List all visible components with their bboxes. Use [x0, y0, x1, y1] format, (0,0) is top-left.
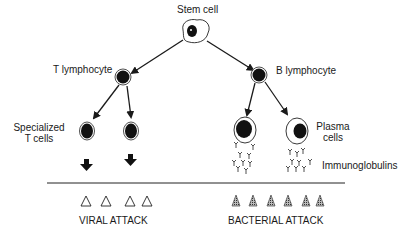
plasma-cell-icon — [286, 118, 308, 144]
t-lymphocyte-label: T lymphocyte — [53, 64, 112, 75]
bacterial-attack-label: BACTERIAL ATTACK — [228, 215, 323, 226]
t-lymphocyte-icon — [115, 69, 131, 85]
arrow-stem-to-t — [132, 40, 183, 73]
specialized-t-cell-icon — [124, 122, 139, 140]
t-cell-attack-arrow-icon — [80, 159, 93, 171]
b-lymphocyte-label: B lymphocyte — [276, 65, 336, 76]
arrow-t-to-spec2 — [127, 86, 131, 117]
specialized-t-cells-label: Specialized T cells — [10, 122, 68, 144]
plasma-cell-icon — [234, 117, 256, 143]
bacteria-icons — [232, 195, 324, 206]
arrow-t-to-spec1 — [94, 85, 119, 118]
specialized-t-cells-line1: Specialized — [10, 122, 68, 133]
immunoglobulin-icons — [232, 142, 312, 174]
plasma-cells-line1: Plasma — [315, 121, 351, 132]
arrow-b-to-plasma2 — [265, 82, 287, 114]
diagram-canvas — [0, 0, 413, 239]
specialized-t-cell-icon — [80, 122, 95, 140]
specialized-t-cells-line2: T cells — [10, 133, 68, 144]
viral-attack-label: VIRAL ATTACK — [79, 215, 148, 226]
stem-cell-icon — [183, 19, 209, 42]
plasma-cells-label: Plasma cells — [315, 121, 351, 143]
b-lymphocyte-icon — [251, 67, 267, 83]
immunoglobulins-label: Immunoglobulins — [322, 160, 398, 171]
virus-icons — [81, 196, 152, 206]
arrow-b-to-plasma1 — [247, 83, 255, 115]
stem-cell-label: Stem cell — [177, 4, 218, 15]
arrow-stem-to-b — [207, 41, 253, 70]
t-cell-attack-arrow-icon — [124, 154, 137, 166]
plasma-cells-line2: cells — [315, 132, 351, 143]
